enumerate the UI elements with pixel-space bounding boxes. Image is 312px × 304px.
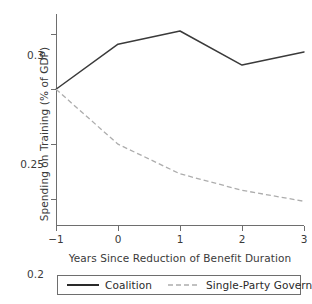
legend-swatch-dashed-line [168,280,200,290]
y-tick-label: 0.2 [27,268,44,280]
chart-page: 0.150.20.250.3 −10123 Spending on Traini… [0,0,312,304]
series-line-coalition [56,31,304,89]
chart-plot-lines [56,14,304,226]
x-axis-title: Years Since Reduction of Benefit Duratio… [56,252,304,264]
x-tick-label: 3 [301,233,308,245]
x-tick-label: 0 [115,233,122,245]
plot-area: 0.150.20.250.3 −10123 Spending on Traini… [56,14,304,226]
x-tick-mark [242,226,243,231]
x-tick-label: 1 [177,233,184,245]
legend-item-coalition: Coalition [67,279,152,291]
x-tick-mark [56,226,57,231]
y-axis-title: Spending on Training (% of GDP) [38,47,50,222]
legend-label-coalition: Coalition [105,279,152,291]
x-tick-label: −1 [48,233,63,245]
legend-label-single-party-government: Single-Party Government [206,279,312,291]
chart-legend: Coalition Single-Party Government [57,275,301,295]
legend-item-single-party-government: Single-Party Government [168,279,312,291]
series-line-single-party-government [56,89,304,201]
legend-swatch-solid-line [67,280,99,290]
x-tick-mark [118,226,119,231]
x-tick-label: 2 [239,233,246,245]
x-tick-mark [180,226,181,231]
x-tick-mark [304,226,305,231]
